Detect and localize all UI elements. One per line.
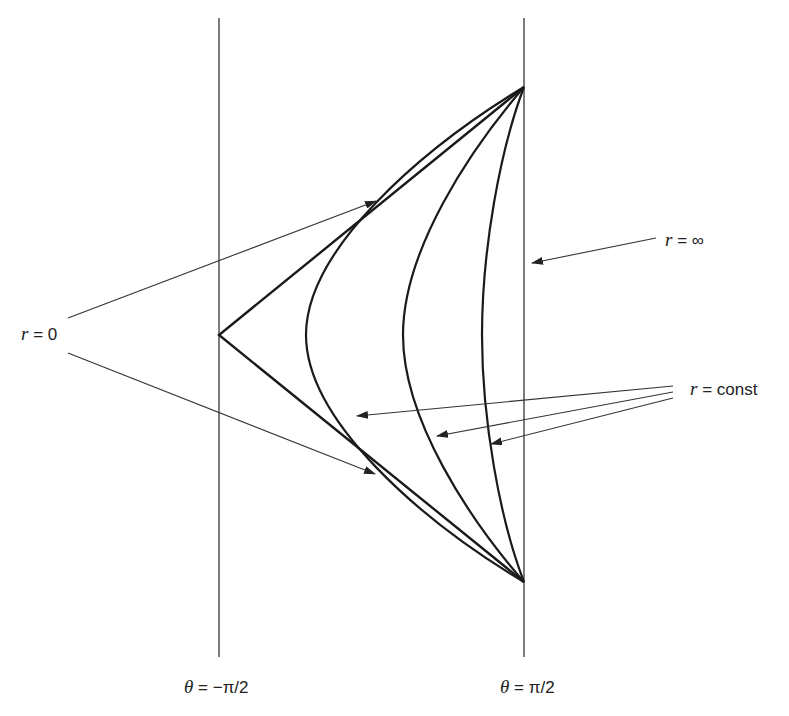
r-zero-wedge	[219, 87, 524, 582]
label-theta-right: θ = π/2	[500, 676, 555, 698]
label-theta-left-text: = −π/2	[193, 678, 248, 697]
label-r-zero-text: = 0	[28, 325, 57, 344]
label-r-infinity: r = ∞	[665, 229, 704, 251]
label-r-zero: r = 0	[21, 323, 57, 345]
label-theta-right-var: θ	[500, 676, 509, 697]
arrow-r-infinity	[532, 238, 656, 263]
arrow-r-zero-lower	[68, 353, 375, 474]
label-r-infinity-text: = ∞	[672, 231, 704, 250]
label-theta-right-text: = π/2	[509, 678, 554, 697]
r-const-curve-1	[306, 87, 524, 582]
arrow-r-const-2	[437, 392, 673, 436]
penrose-diagram: r = 0 r = ∞ r = const θ = −π/2 θ = π/2	[0, 0, 789, 716]
label-theta-left: θ = −π/2	[184, 676, 249, 698]
r-const-curve-3	[482, 87, 524, 582]
diagram-canvas	[0, 0, 789, 716]
label-r-const: r = const	[690, 378, 757, 400]
label-r-const-text: = const	[697, 380, 757, 399]
label-theta-left-var: θ	[184, 676, 193, 697]
